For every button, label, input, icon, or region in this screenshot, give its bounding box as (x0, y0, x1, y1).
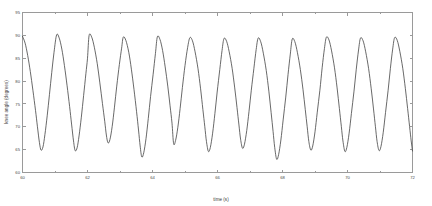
plot-canvas: 6065707580859095 60626466687072 time (s)… (0, 0, 432, 206)
y-tick-label: 80 (15, 79, 20, 84)
x-tick-label: 62 (85, 175, 90, 180)
y-tick-label: 65 (15, 147, 20, 152)
y-axis-title: knee angle (degrees) (4, 80, 9, 124)
x-tick-label: 60 (20, 175, 25, 180)
x-tick-label: 70 (345, 175, 350, 180)
y-tick-label: 95 (15, 10, 20, 15)
y-tick-label: 85 (15, 56, 20, 61)
y-tick-label: 70 (15, 124, 20, 129)
y-tick-label: 90 (15, 33, 20, 38)
x-tick-label: 68 (280, 175, 285, 180)
x-tick-label: 64 (150, 175, 155, 180)
x-tick-label: 72 (410, 175, 415, 180)
x-tick-label: 66 (215, 175, 220, 180)
y-tick-label: 75 (15, 102, 20, 107)
x-axis-title: time (s) (213, 197, 229, 202)
chart-figure: 6065707580859095 60626466687072 time (s)… (0, 0, 432, 206)
